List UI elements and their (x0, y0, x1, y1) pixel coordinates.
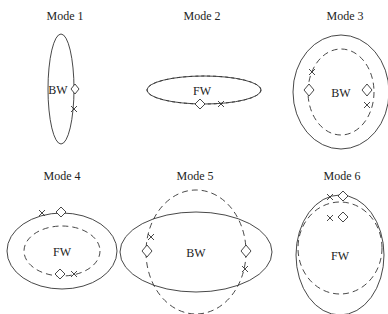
panel-mode-1: Mode 1 BW (47, 9, 84, 144)
x-marker (364, 102, 370, 108)
panel-mode-2: Mode 2 FW (147, 9, 261, 109)
x-marker (71, 106, 77, 112)
panel-title: Mode 6 (324, 169, 361, 183)
diamond-marker (338, 212, 348, 222)
whirl-label: FW (193, 84, 212, 98)
diamond-marker (241, 245, 251, 257)
panel-mode-4: Mode 4 FW (7, 169, 117, 289)
panel-mode-6: Mode 6 FW (296, 169, 384, 314)
diamond-marker (195, 99, 205, 109)
diamond-marker (338, 191, 348, 201)
diamond-marker (362, 84, 372, 96)
diamond-marker (142, 245, 152, 257)
x-marker (309, 69, 315, 75)
whirl-label: BW (331, 86, 351, 100)
diamond-marker (55, 269, 65, 279)
x-marker (327, 215, 333, 221)
whirl-label: BW (48, 83, 68, 97)
panel-title: Mode 1 (47, 9, 84, 23)
panel-mode-5: Mode 5 BW (120, 169, 272, 314)
panel-title: Mode 2 (184, 9, 221, 23)
panel-mode-3: Mode 3 BW (293, 9, 388, 149)
diamond-marker (71, 84, 79, 94)
whirl-label: FW (331, 249, 350, 263)
x-marker (218, 101, 224, 107)
mode-shapes-diagram: Mode 1 BW Mode 2 FW Mode 3 BW Mode 4 FW (0, 0, 388, 314)
panel-title: Mode 4 (44, 169, 81, 183)
x-marker (148, 234, 154, 240)
diamond-marker (56, 207, 66, 217)
whirl-label: FW (53, 245, 72, 259)
panel-title: Mode 5 (177, 169, 214, 183)
diamond-marker (304, 84, 314, 96)
whirl-label: BW (186, 246, 206, 260)
panel-title: Mode 3 (327, 9, 364, 23)
x-marker (242, 266, 248, 272)
